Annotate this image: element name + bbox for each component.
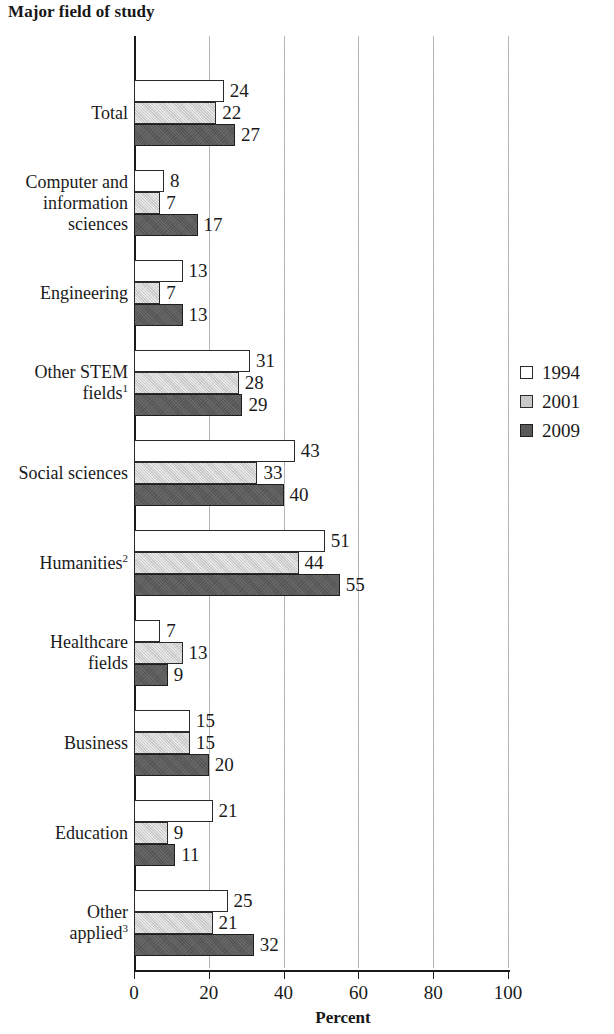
bar (134, 530, 325, 552)
legend-item[interactable]: 1994 (520, 358, 612, 387)
bar-value-label: 13 (189, 304, 208, 326)
bar (134, 214, 198, 236)
bar (134, 890, 228, 912)
legend-label: 2001 (542, 391, 580, 413)
x-tick (209, 970, 210, 979)
chart-title: Major field of study (8, 2, 155, 22)
category-label-line: Business (0, 733, 128, 754)
category-label-line: applied3 (0, 923, 128, 944)
category-label-line: Engineering (0, 283, 128, 304)
legend-label: 1994 (542, 362, 580, 384)
bar-value-label: 22 (222, 102, 241, 124)
category-label-line: Education (0, 823, 128, 844)
bar-value-label: 43 (301, 440, 320, 462)
bar (134, 912, 213, 934)
bar-value-label: 15 (196, 732, 215, 754)
legend-item[interactable]: 2001 (520, 387, 612, 416)
x-tick (134, 970, 135, 979)
bar-value-label: 11 (181, 844, 199, 866)
bar-value-label: 7 (166, 282, 176, 304)
legend-swatch-icon (520, 424, 533, 437)
category-label: Healthcarefields (0, 632, 128, 674)
bar-value-label: 17 (204, 214, 223, 236)
bar-value-label: 55 (346, 574, 365, 596)
category-label-line: Social sciences (0, 463, 128, 484)
category-label: Social sciences (0, 463, 128, 484)
legend-item[interactable]: 2009 (520, 416, 612, 445)
legend-swatch-icon (520, 366, 533, 379)
gridline-40 (284, 36, 285, 968)
bar-value-label: 44 (305, 552, 324, 574)
bar (134, 620, 160, 642)
legend-swatch-icon (520, 395, 533, 408)
category-label: Engineering (0, 283, 128, 304)
bar-value-label: 9 (174, 664, 184, 686)
bar (134, 304, 183, 326)
footnote-marker: 2 (123, 552, 129, 564)
bar (134, 372, 239, 394)
bar (134, 394, 242, 416)
bar (134, 260, 183, 282)
category-label-line: Healthcare (0, 632, 128, 653)
bar (134, 102, 216, 124)
bar-value-label: 21 (219, 800, 238, 822)
bar (134, 192, 160, 214)
bar-value-label: 20 (215, 754, 234, 776)
bar-value-label: 32 (260, 934, 279, 956)
bar-value-label: 25 (234, 890, 253, 912)
bar (134, 754, 209, 776)
bar (134, 350, 250, 372)
category-label-line: Computer and (0, 172, 128, 193)
legend-label: 2009 (542, 420, 580, 442)
gridline-100 (508, 36, 509, 968)
bar-value-label: 33 (263, 462, 282, 484)
bar-value-label: 24 (230, 80, 249, 102)
x-tick-label: 80 (403, 982, 463, 1004)
bar (134, 462, 257, 484)
bar (134, 664, 168, 686)
category-label-line: fields (0, 653, 128, 674)
bar-value-label: 13 (189, 642, 208, 664)
category-label-line: fields1 (0, 383, 128, 404)
bar (134, 124, 235, 146)
bar (134, 552, 299, 574)
bar-value-label: 7 (166, 192, 176, 214)
bar (134, 170, 164, 192)
category-label: Other STEMfields1 (0, 362, 128, 404)
bar-value-label: 7 (166, 620, 176, 642)
category-label-line: Other STEM (0, 362, 128, 383)
category-label: Otherapplied3 (0, 902, 128, 944)
bar-value-label: 31 (256, 350, 275, 372)
bar-chart: Major field of study Percent 19942001200… (0, 0, 614, 1034)
x-tick-label: 40 (254, 982, 314, 1004)
category-label-line: Other (0, 902, 128, 923)
bar (134, 574, 340, 596)
chart-legend: 199420012009 (520, 358, 612, 445)
footnote-marker: 1 (123, 382, 129, 394)
footnote-marker: 3 (123, 922, 129, 934)
bar-value-label: 8 (170, 170, 180, 192)
bar (134, 710, 190, 732)
bar (134, 800, 213, 822)
gridline-60 (358, 36, 359, 968)
category-label: Computer andinformationsciences (0, 172, 128, 235)
bar (134, 642, 183, 664)
bar-value-label: 9 (174, 822, 184, 844)
bar (134, 822, 168, 844)
bar (134, 440, 295, 462)
x-tick (508, 970, 509, 979)
bar-value-label: 27 (241, 124, 260, 146)
category-label: Business (0, 733, 128, 754)
bar (134, 934, 254, 956)
x-tick-label: 0 (104, 982, 164, 1004)
bar (134, 80, 224, 102)
gridline-80 (433, 36, 434, 968)
bar-value-label: 15 (196, 710, 215, 732)
bar-value-label: 28 (245, 372, 264, 394)
bar (134, 844, 175, 866)
x-tick (284, 970, 285, 979)
category-label-line: sciences (0, 214, 128, 235)
x-tick (358, 970, 359, 979)
bar (134, 282, 160, 304)
x-tick-label: 60 (328, 982, 388, 1004)
